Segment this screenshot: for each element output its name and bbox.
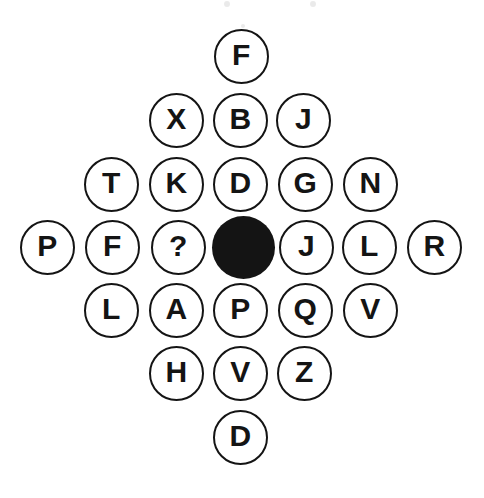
scan-speck: [224, 1, 230, 7]
letter-circle[interactable]: Z: [277, 346, 332, 401]
letter-circle[interactable]: F: [214, 29, 269, 84]
letter-circle-label: R: [423, 231, 444, 261]
letter-circle-label: J: [295, 104, 311, 134]
letter-circle-label: X: [166, 104, 186, 134]
letter-circle[interactable]: K: [149, 157, 204, 212]
letter-circle[interactable]: P: [20, 220, 75, 275]
letter-circle[interactable]: Q: [278, 283, 333, 338]
letter-circle-label: F: [232, 40, 250, 70]
letter-circle[interactable]: L: [342, 220, 397, 275]
letter-circle-label: N: [359, 168, 380, 198]
letter-circle-label: T: [102, 168, 120, 198]
letter-circle-label: L: [102, 294, 120, 324]
letter-circle[interactable]: D: [213, 410, 268, 465]
letter-circle-label: K: [165, 168, 186, 198]
letter-circle-label: V: [230, 357, 250, 387]
letter-circle[interactable]: T: [84, 157, 139, 212]
letter-circle[interactable]: V: [213, 346, 268, 401]
letter-circle-label: A: [165, 294, 186, 324]
scan-speck: [310, 1, 316, 7]
letter-circle-label: D: [229, 421, 250, 451]
letter-circle-filled[interactable]: [212, 216, 275, 279]
letter-circle-diagram: FXBJTKDGNPF?JLRLAPQVHVZD: [0, 0, 484, 498]
letter-circle[interactable]: H: [149, 346, 204, 401]
letter-circle[interactable]: X: [149, 93, 204, 148]
letter-circle[interactable]: ?: [151, 220, 206, 275]
letter-circle[interactable]: L: [84, 283, 139, 338]
letter-circle[interactable]: F: [85, 220, 140, 275]
letter-circle-label: V: [360, 294, 380, 324]
letter-circle-label: F: [103, 231, 121, 261]
letter-circle[interactable]: N: [343, 157, 398, 212]
letter-circle[interactable]: P: [213, 283, 268, 338]
letter-circle-label: ?: [169, 231, 187, 261]
letter-circle[interactable]: V: [343, 283, 398, 338]
letter-circle[interactable]: R: [407, 220, 462, 275]
letter-circle[interactable]: D: [213, 157, 268, 212]
letter-circle-label: Z: [295, 357, 313, 387]
letter-circle-label: P: [230, 294, 250, 324]
letter-circle[interactable]: J: [279, 220, 334, 275]
letter-circle[interactable]: G: [278, 157, 333, 212]
letter-circle-label: P: [37, 231, 57, 261]
letter-circle-label: Q: [294, 294, 317, 324]
letter-circle[interactable]: B: [213, 93, 268, 148]
letter-circle-label: H: [165, 357, 186, 387]
letter-circle[interactable]: A: [149, 283, 204, 338]
letter-circle-label: D: [229, 168, 250, 198]
letter-circle-label: J: [298, 231, 314, 261]
scan-speck: [241, 24, 245, 28]
letter-circle-label: B: [229, 104, 250, 134]
letter-circle[interactable]: J: [276, 93, 331, 148]
letter-circle-label: G: [294, 168, 317, 198]
letter-circle-label: L: [360, 231, 378, 261]
